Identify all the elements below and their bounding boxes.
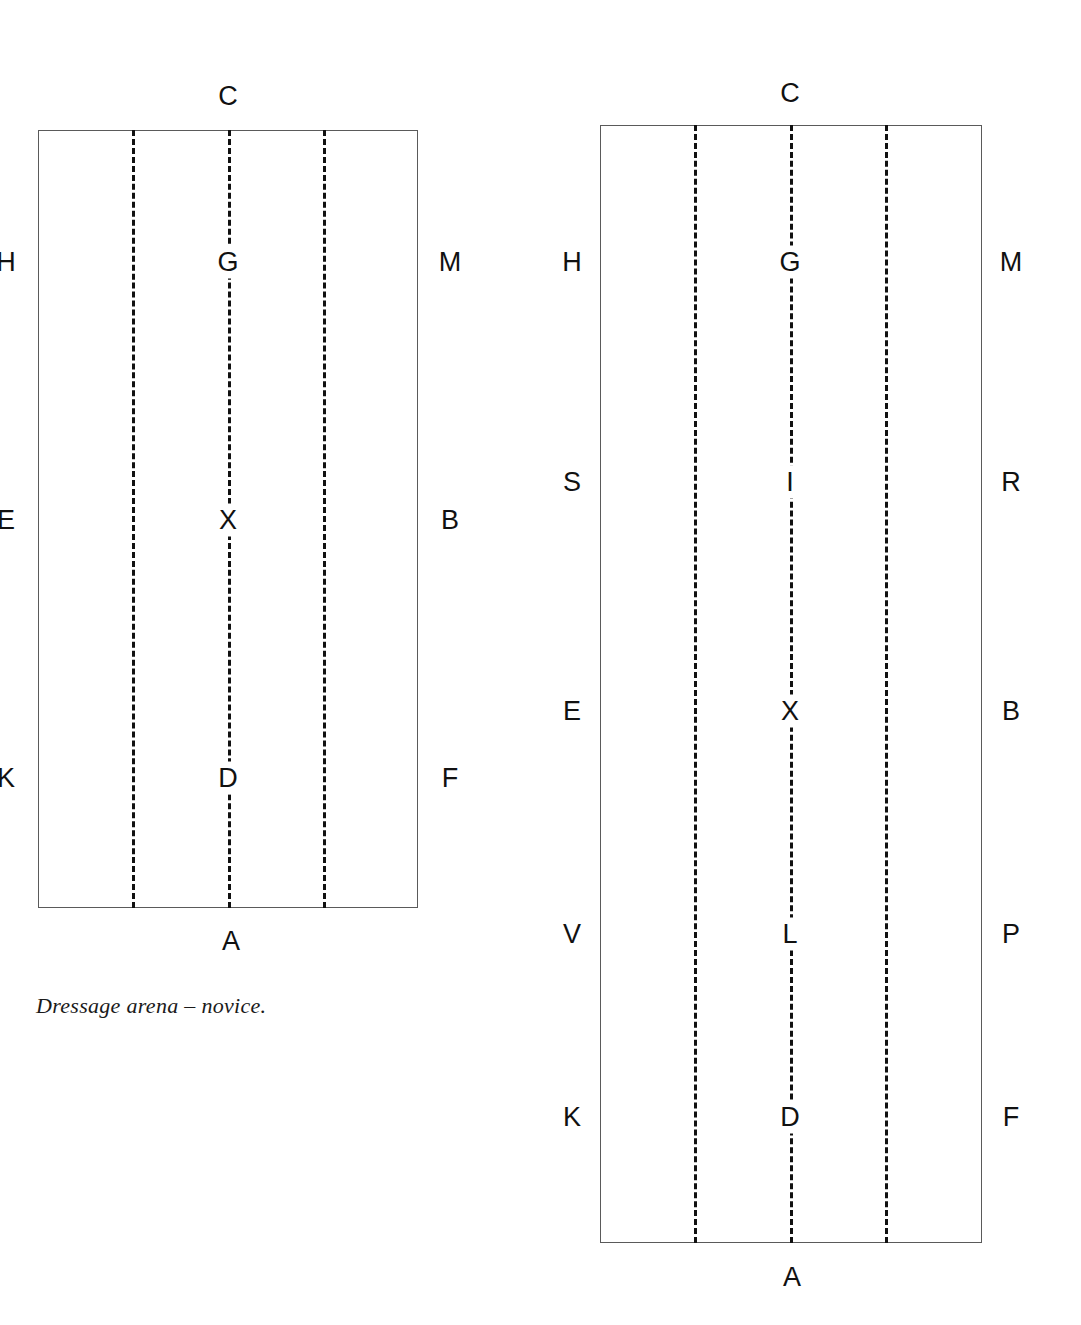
standard-arena-marker-X: X [776, 695, 804, 728]
novice-arena-quarterline-right [323, 130, 326, 908]
standard-arena-marker-R: R [1001, 469, 1021, 496]
standard-arena-marker-V: V [563, 921, 581, 948]
novice-arena-marker-B: B [441, 507, 459, 534]
standard-arena-marker-F: F [1003, 1104, 1020, 1131]
standard-arena-marker-M: M [1000, 249, 1023, 276]
standard-arena-marker-B: B [1002, 698, 1020, 725]
novice-arena-marker-F: F [442, 765, 459, 792]
standard-arena-marker-L: L [777, 918, 802, 951]
standard-arena-centreline [790, 125, 793, 1243]
novice-arena-marker-D: D [213, 762, 243, 795]
standard-arena-marker-E: E [563, 698, 581, 725]
standard-arena-figure: C H S E V K M R B P F G I X L D A [540, 0, 1081, 1325]
standard-arena-marker-D: D [775, 1101, 805, 1134]
novice-arena-marker-G: G [212, 246, 243, 279]
novice-arena-marker-H: H [0, 249, 16, 276]
standard-arena-marker-S: S [563, 469, 581, 496]
novice-arena-quarterline-left [132, 130, 135, 908]
standard-arena-marker-H: H [562, 249, 582, 276]
novice-arena-marker-E: E [0, 507, 15, 534]
standard-arena-marker-I: I [781, 466, 799, 499]
novice-arena-figure: C H E K M B F G X D A Dressage arena – n… [0, 0, 500, 1040]
diagram-page: C H E K M B F G X D A Dressage arena – n… [0, 0, 1081, 1325]
novice-arena-marker-M: M [439, 249, 462, 276]
standard-arena-marker-K: K [563, 1104, 581, 1131]
standard-arena-label-A: A [783, 1264, 801, 1291]
novice-arena-caption: Dressage arena – novice. [36, 993, 266, 1019]
standard-arena-marker-G: G [774, 246, 805, 279]
novice-arena-marker-X: X [214, 504, 242, 537]
novice-arena-marker-K: K [0, 765, 15, 792]
standard-arena-quarterline-left [694, 125, 697, 1243]
standard-arena-marker-P: P [1002, 921, 1020, 948]
novice-arena-label-C: C [218, 83, 238, 110]
standard-arena-quarterline-right [885, 125, 888, 1243]
standard-arena-label-C: C [780, 80, 800, 107]
novice-arena-label-A: A [222, 928, 240, 955]
